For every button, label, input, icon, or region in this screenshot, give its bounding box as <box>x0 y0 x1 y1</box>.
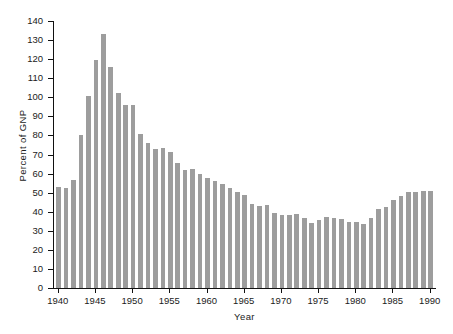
x-tick-1990 <box>430 289 431 293</box>
bar-1967 <box>257 206 262 288</box>
bar-1959 <box>198 174 203 288</box>
y-tick-110 <box>48 78 53 79</box>
y-tick-label-60: 60 <box>11 169 43 179</box>
bar-1965 <box>242 195 247 288</box>
bar-1957 <box>183 170 188 288</box>
bar-1977 <box>332 218 337 288</box>
y-tick-30 <box>48 231 53 232</box>
y-tick-label-0: 0 <box>11 283 43 293</box>
y-tick-70 <box>48 155 53 156</box>
bar-1945 <box>94 60 99 288</box>
y-tick-label-40: 40 <box>11 207 43 217</box>
bar-1958 <box>190 169 195 288</box>
y-tick-label-140: 140 <box>11 16 43 26</box>
x-tick-1950 <box>132 289 133 293</box>
x-tick-label-1970: 1970 <box>261 295 301 306</box>
bar-1975 <box>317 220 322 288</box>
bar-1973 <box>302 218 307 288</box>
y-tick-label-130: 130 <box>11 35 43 45</box>
x-tick-label-1940: 1940 <box>38 295 78 306</box>
bar-1963 <box>228 188 233 288</box>
y-tick-20 <box>48 250 53 251</box>
y-tick-40 <box>48 212 53 213</box>
bar-1984 <box>384 207 389 288</box>
x-tick-1975 <box>318 289 319 293</box>
x-tick-1970 <box>281 289 282 293</box>
x-tick-1965 <box>244 289 245 293</box>
bar-1976 <box>324 217 329 288</box>
x-tick-label-1985: 1985 <box>372 295 412 306</box>
bar-1986 <box>399 196 404 288</box>
x-tick-1945 <box>95 289 96 293</box>
y-tick-100 <box>48 97 53 98</box>
bar-1950 <box>131 105 136 288</box>
x-tick-label-1955: 1955 <box>149 295 189 306</box>
bar-1988 <box>413 192 418 289</box>
bar-1966 <box>250 204 255 288</box>
y-tick-label-30: 30 <box>11 226 43 236</box>
y-tick-130 <box>48 40 53 41</box>
y-tick-label-110: 110 <box>11 73 43 83</box>
bar-1987 <box>406 192 411 288</box>
bar-1969 <box>272 213 277 288</box>
y-tick-label-20: 20 <box>11 245 43 255</box>
y-tick-10 <box>48 269 53 270</box>
x-tick-label-1975: 1975 <box>298 295 338 306</box>
x-tick-label-1950: 1950 <box>112 295 152 306</box>
bar-1964 <box>235 192 240 289</box>
bar-1940 <box>56 187 61 288</box>
bar-1962 <box>220 184 225 288</box>
bar-1946 <box>101 34 106 288</box>
bar-1949 <box>123 105 128 288</box>
y-tick-label-10: 10 <box>11 264 43 274</box>
bar-1978 <box>339 219 344 288</box>
bar-1979 <box>347 222 352 288</box>
y-tick-80 <box>48 135 53 136</box>
y-tick-label-80: 80 <box>11 130 43 140</box>
bar-1942 <box>71 180 76 288</box>
x-tick-1960 <box>207 289 208 293</box>
bar-1948 <box>116 93 121 288</box>
x-tick-1980 <box>355 289 356 293</box>
x-tick-label-1960: 1960 <box>187 295 227 306</box>
y-tick-label-100: 100 <box>11 92 43 102</box>
bar-1989 <box>421 191 426 288</box>
bar-1956 <box>175 163 180 288</box>
y-tick-label-70: 70 <box>11 150 43 160</box>
y-tick-label-90: 90 <box>11 111 43 121</box>
x-axis-title: Year <box>53 311 436 322</box>
chart-figure: Percent of GNP 0102030405060708090100110… <box>0 0 453 334</box>
bar-1985 <box>391 200 396 288</box>
y-tick-label-50: 50 <box>11 188 43 198</box>
bar-1980 <box>354 222 359 288</box>
bar-1954 <box>161 148 166 288</box>
bar-1960 <box>205 178 210 288</box>
bar-1972 <box>294 214 299 288</box>
x-tick-1985 <box>392 289 393 293</box>
bar-1943 <box>79 135 84 288</box>
y-tick-90 <box>48 116 53 117</box>
bar-1970 <box>280 215 285 288</box>
y-tick-label-120: 120 <box>11 54 43 64</box>
y-tick-50 <box>48 193 53 194</box>
bar-1982 <box>369 218 374 288</box>
plot-area: 0102030405060708090100110120130140 19401… <box>53 21 435 288</box>
bar-1968 <box>265 205 270 288</box>
bar-1955 <box>168 152 173 288</box>
bar-1947 <box>108 67 113 288</box>
y-tick-60 <box>48 174 53 175</box>
x-tick-1940 <box>58 289 59 293</box>
bar-1953 <box>153 149 158 288</box>
bar-1944 <box>86 96 91 288</box>
bar-1971 <box>287 215 292 288</box>
bar-1951 <box>138 134 143 288</box>
bar-1983 <box>376 209 381 288</box>
y-tick-0 <box>48 288 53 289</box>
x-tick-1955 <box>169 289 170 293</box>
bar-1961 <box>213 181 218 288</box>
bar-1981 <box>361 224 366 288</box>
x-tick-label-1945: 1945 <box>75 295 115 306</box>
bar-series <box>54 21 436 288</box>
x-tick-label-1980: 1980 <box>335 295 375 306</box>
bar-1990 <box>428 191 433 288</box>
